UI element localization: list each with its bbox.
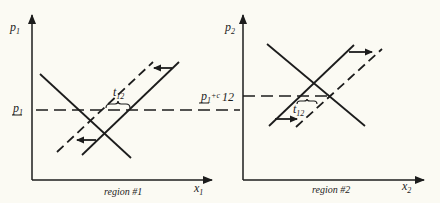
diagram-canvas: p1 x1 region #1 p1 t12 p2 [0, 0, 440, 203]
supply-curve-region-1 [82, 62, 179, 155]
panel-region-1: p1 x1 region #1 p1 t12 [9, 15, 212, 197]
caption-region-2: region #2 [312, 184, 350, 195]
x-axis-label-region-2: x2 [401, 179, 411, 195]
demand-curve-region-1 [40, 74, 131, 158]
caption-region-1: region #1 [104, 186, 142, 197]
transport-cost-label-region-2: t12 [293, 102, 304, 118]
x-axis-label-region-1: x1 [193, 181, 203, 197]
transport-cost-brace-region-2 [297, 99, 317, 104]
shifted-supply-curve-region-1 [57, 62, 153, 152]
transport-cost-label-region-1: t12 [113, 85, 124, 101]
y-axis-label-region-1: p1 [9, 20, 20, 36]
y-axis-label-region-2: p2 [224, 20, 235, 36]
panel-region-2: p2 x2 region #2 p1+c12 t12 [199, 15, 424, 195]
